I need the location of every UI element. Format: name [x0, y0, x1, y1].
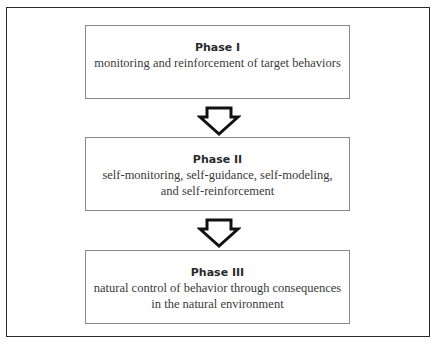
phase-2-box: Phase II self-monitoring, self-guidance,…: [85, 137, 350, 211]
phase-2-title: Phase II: [86, 153, 349, 167]
down-arrow-icon: [197, 106, 241, 136]
phase-1-title: Phase I: [86, 41, 349, 55]
phase-1-box: Phase I monitoring and reinforcement of …: [85, 25, 350, 99]
phase-3-title: Phase III: [86, 266, 349, 280]
phase-1-description: monitoring and reinforcement of target b…: [86, 55, 349, 71]
down-arrow-icon: [197, 218, 241, 248]
phase-3-description: natural control of behavior through cons…: [86, 280, 349, 312]
phase-3-box: Phase III natural control of behavior th…: [85, 250, 350, 324]
phase-2-description: self-monitoring, self-guidance, self-mod…: [86, 167, 349, 199]
